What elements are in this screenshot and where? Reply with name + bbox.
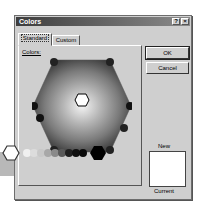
new-color-swatch: [149, 151, 186, 187]
ok-button[interactable]: OK: [146, 47, 189, 59]
help-button[interactable]: ?: [172, 18, 180, 25]
cancel-button[interactable]: Cancel: [146, 62, 189, 74]
colors-dialog: Colors ? × Standard Custom Colors:: [14, 15, 192, 200]
close-button[interactable]: ×: [181, 18, 189, 25]
tab-standard[interactable]: Standard: [18, 33, 52, 46]
current-label: Current: [154, 188, 174, 194]
dialog-title: Colors: [19, 17, 41, 26]
grayscale-row[interactable]: [2, 145, 130, 161]
title-bar[interactable]: Colors ? ×: [16, 17, 190, 26]
new-label: New: [158, 143, 170, 149]
selected-color-hex: [75, 94, 89, 106]
colors-label: Colors:: [22, 49, 41, 55]
